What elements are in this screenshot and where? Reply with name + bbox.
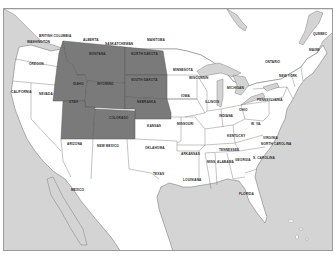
label-oregon: OREGON [29, 62, 44, 66]
label-ontario: ONTARIO [265, 60, 281, 64]
label-saskatchewan: SASKATCHEWAN [105, 42, 134, 46]
label-kansas: KANSAS [147, 124, 161, 128]
label-nevada: NEVADA [39, 92, 53, 96]
label-wisconsin: WISCONSIN [189, 76, 209, 80]
bahamas [288, 220, 309, 240]
label-south-dakota: SOUTH DAKOTA [131, 78, 158, 82]
label-texas: TEXAS [153, 172, 164, 176]
label-washington: WASHINGTON [27, 40, 50, 44]
label-oklahoma: OKLAHOMA [145, 146, 165, 150]
label-kentucky: KENTUCKY [227, 134, 246, 138]
label-illinois: ILLINOIS [205, 100, 219, 104]
label-west-virginia: W. VA. [251, 122, 261, 126]
label-british-columbia: BRITISH COLUMBIA [39, 34, 72, 38]
label-idaho: IDAHO [73, 82, 84, 86]
label-missouri: MISSOURI [177, 122, 194, 126]
label-nebraska: NEBRASKA [137, 100, 156, 104]
state-colorado [93, 109, 135, 139]
label-florida: FLORIDA [239, 192, 254, 196]
label-michigan: MICHIGAN [227, 86, 245, 90]
us-map: BRITISH COLUMBIA ALBERTA SASKATCHEWAN MA… [4, 9, 333, 251]
map-frame: BRITISH COLUMBIA ALBERTA SASKATCHEWAN MA… [3, 8, 333, 251]
label-arizona: ARIZONA [67, 142, 83, 146]
label-wyoming: WYOMING [97, 82, 114, 86]
label-manitoba: MANITOBA [147, 38, 166, 42]
label-colorado: COLORADO [109, 116, 129, 120]
label-maine: MAINE [309, 48, 320, 52]
label-quebec: QUEBEC [313, 32, 328, 36]
label-north-carolina: NORTH CAROLINA [261, 142, 292, 146]
label-north-dakota: NORTH DAKOTA [131, 52, 158, 56]
label-louisiana: LOUISIANA [183, 178, 202, 182]
label-minnesota: MINNESOTA [173, 68, 193, 72]
label-pennsylvania: PENNSYLVANIA [257, 98, 283, 102]
label-utah: UTAH [69, 100, 79, 104]
label-new-york: NEW YORK [279, 74, 298, 78]
label-montana: MONTANA [89, 52, 106, 56]
label-arkansas: ARKANSAS [181, 152, 200, 156]
label-california: CALIFORNIA [11, 90, 32, 94]
label-new-mexico: NEW MEXICO [97, 144, 119, 148]
label-alabama: ALABAMA [217, 160, 234, 164]
label-south-carolina: S. CAROLINA [253, 156, 275, 160]
label-virginia: VIRGINIA [263, 136, 279, 140]
label-iowa: IOWA [181, 94, 190, 98]
label-georgia: GEORGIA [235, 158, 251, 162]
label-indiana: INDIANA [219, 114, 234, 118]
label-tennessee: TENNESSEE [219, 148, 239, 152]
label-mississippi: MISS. [207, 160, 216, 164]
label-alberta: ALBERTA [83, 38, 99, 42]
label-mexico: MEXICO [71, 188, 85, 192]
label-ohio: OHIO [239, 108, 248, 112]
